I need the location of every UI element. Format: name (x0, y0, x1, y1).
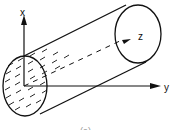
x-axis-label: x (20, 7, 25, 18)
z-axis-label: z (138, 31, 143, 42)
y-axis-arrow-icon (150, 83, 161, 89)
x-axis (21, 15, 27, 86)
figure-caption: (a) (80, 126, 91, 130)
z-axis-arrow-icon (122, 39, 131, 44)
cylinder-diagram: x y z (a) (0, 0, 175, 130)
y-axis-label: y (164, 82, 169, 93)
